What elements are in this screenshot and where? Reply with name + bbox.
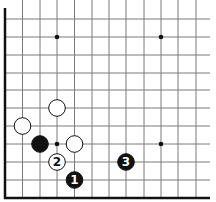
- black-stone: [32, 136, 49, 153]
- grid-lines: [5, 0, 210, 198]
- white-stone-icon: [49, 100, 66, 117]
- white-stone-icon: [14, 118, 31, 135]
- white-stone: [14, 118, 31, 135]
- white-stone-icon: [66, 136, 83, 153]
- star-point-icon: [159, 35, 164, 40]
- white-stone: [66, 136, 83, 153]
- move-number: 1: [70, 173, 78, 187]
- move-number: 3: [122, 155, 130, 169]
- star-point-icon: [55, 35, 60, 40]
- white-stone-2: 2: [49, 154, 66, 171]
- star-point-icon: [159, 142, 164, 147]
- white-stone: [49, 100, 66, 117]
- black-stone-3: 3: [118, 154, 135, 171]
- move-number: 2: [53, 155, 61, 169]
- black-stone-1: 1: [66, 172, 83, 189]
- go-board-diagram: 213: [0, 0, 216, 202]
- star-point-icon: [55, 142, 60, 147]
- black-stone-icon: [32, 136, 49, 153]
- go-board-svg: 213: [0, 0, 216, 202]
